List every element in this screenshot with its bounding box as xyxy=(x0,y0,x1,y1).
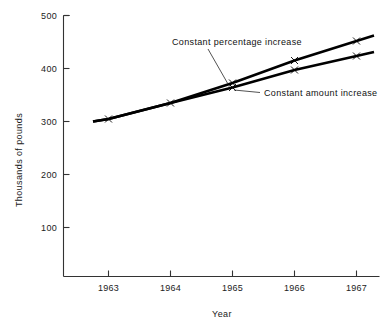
annotation-constant-percentage-label: Constant percentage increase xyxy=(172,37,302,47)
x-axis-title: Year xyxy=(212,309,232,319)
y-tick-label-200: 200 xyxy=(41,170,57,180)
axis-group xyxy=(64,16,380,277)
y-tick-label-300: 300 xyxy=(41,117,57,127)
x-tick-label-1964: 1964 xyxy=(160,283,181,293)
data-series-group xyxy=(93,36,374,122)
annotation-constant-amount-label: Constant amount increase xyxy=(264,88,377,98)
annotation-constant-amount-leader xyxy=(234,90,260,93)
line-chart-svg: 500 400 300 200 100 1963 1964 1965 1966 … xyxy=(0,0,390,326)
y-ticks-group: 500 400 300 200 100 xyxy=(41,11,69,233)
annotation-constant-percentage-leader xyxy=(208,49,228,84)
y-tick-label-400: 400 xyxy=(41,64,57,74)
y-tick-label-100: 100 xyxy=(41,223,57,233)
y-tick-label-500: 500 xyxy=(41,11,57,21)
chart-container: 500 400 300 200 100 1963 1964 1965 1966 … xyxy=(0,0,390,326)
x-tick-label-1965: 1965 xyxy=(222,283,243,293)
x-tick-label-1966: 1966 xyxy=(284,283,305,293)
x-tick-label-1967: 1967 xyxy=(346,283,367,293)
x-tick-label-1963: 1963 xyxy=(98,283,119,293)
y-axis-title: Thousands of pounds xyxy=(14,113,24,207)
series-line-constant-percentage-increase xyxy=(93,36,374,122)
x-ticks-group: 1963 1964 1965 1966 1967 xyxy=(98,271,367,294)
